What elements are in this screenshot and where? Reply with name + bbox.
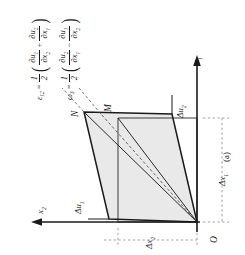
- du2-symbol: Δu: [175, 108, 185, 118]
- eq1-term2: ∂u2 ∂x1: [28, 26, 51, 41]
- eq2-lhs-sub: 3: [69, 91, 75, 94]
- eq2-open-paren: (: [59, 67, 81, 72]
- eq2-operator: −: [64, 43, 74, 48]
- eq1-lhs: ε: [34, 97, 44, 100]
- eq1-t1-den: ∂x: [39, 55, 49, 63]
- eq2-t1-num: ∂u: [57, 54, 67, 62]
- du2-subscript: 2: [181, 105, 187, 108]
- eq1-coef-num: 1: [30, 74, 39, 82]
- eq1-operator: +: [34, 43, 44, 48]
- eq2-t2-den-sub: 2: [75, 28, 81, 31]
- eq2-term2: ∂u1 ∂x2: [58, 26, 81, 41]
- eq1-t2-num-sub: 2: [33, 28, 39, 31]
- du1-subscript: 1: [79, 201, 85, 204]
- dimension-label-dx2: Δx2: [145, 237, 156, 249]
- equation-rotation: ω3 = 1 2 ( ∂u2 ∂x1 − ∂u1 ∂x2 ): [58, 18, 81, 100]
- point-label-m: M: [104, 104, 114, 112]
- eq1-lhs-sub: 12: [39, 91, 45, 96]
- eq2-coefficient: 1 2: [60, 74, 79, 82]
- eq2-t2-num-sub: 1: [63, 28, 69, 31]
- equation-shear-strain: ε12 = 1 2 ( ∂u1 ∂x2 + ∂u2 ∂x1 ): [28, 18, 51, 100]
- eq1-t1-num-sub: 1: [33, 52, 39, 55]
- eq2-t1-den: ∂x: [69, 55, 79, 63]
- eq1-t2-den-sub: 1: [45, 28, 51, 31]
- eq2-coef-num: 1: [60, 74, 69, 82]
- axis-x1-subscript: 1: [197, 57, 203, 60]
- figure-caption: (a): [222, 152, 231, 162]
- eq2-coef-den: 2: [69, 74, 79, 82]
- eq2-t1-num-sub: 2: [63, 52, 69, 55]
- eq1-t2-num: ∂u: [27, 30, 37, 38]
- dx2-symbol: Δx: [144, 240, 154, 249]
- origin-label: O: [210, 236, 220, 243]
- dx2-subscript: 2: [150, 237, 156, 240]
- eq2-term1: ∂u2 ∂x1: [58, 50, 81, 65]
- dimension-label-du2: Δu2: [176, 105, 187, 118]
- eq2-t2-den: ∂x: [69, 30, 79, 38]
- dx1-symbol: Δx: [217, 177, 227, 186]
- figure-root: ε12 = 1 2 ( ∂u1 ∂x2 + ∂u2 ∂x1 ) ω3 = 1 2…: [0, 0, 245, 255]
- eq1-close-paren: ): [29, 18, 51, 23]
- eq2-equals: =: [64, 84, 74, 89]
- axis-label-x1: x1: [192, 57, 203, 64]
- eq1-term1: ∂u1 ∂x2: [28, 50, 51, 65]
- axis-x2-arrowhead: [31, 218, 42, 226]
- eq2-close-paren: ): [59, 18, 81, 23]
- axis-x1-symbol: x: [191, 60, 201, 64]
- dimension-label-dx1: Δx1: [218, 174, 229, 186]
- axis-x2-symbol: x: [35, 210, 45, 214]
- axis-label-x2: x2: [36, 207, 47, 214]
- dimension-label-du1: Δu1: [74, 201, 85, 214]
- eq2-lhs: ω: [64, 94, 74, 100]
- eq1-t1-den-sub: 2: [45, 52, 51, 55]
- dx1-subscript: 1: [223, 174, 229, 177]
- eq1-t2-den: ∂x: [39, 30, 49, 38]
- eq1-equals: =: [34, 84, 44, 89]
- du1-symbol: Δu: [73, 204, 83, 214]
- point-label-n: N: [71, 111, 81, 117]
- eq2-t1-den-sub: 1: [75, 52, 81, 55]
- eq2-t2-num: ∂u: [57, 30, 67, 38]
- eq1-open-paren: (: [29, 67, 51, 72]
- eq1-coef-den: 2: [39, 74, 49, 82]
- eq1-t1-num: ∂u: [27, 54, 37, 62]
- axis-x2-subscript: 2: [41, 207, 47, 210]
- eq1-coefficient: 1 2: [30, 74, 49, 82]
